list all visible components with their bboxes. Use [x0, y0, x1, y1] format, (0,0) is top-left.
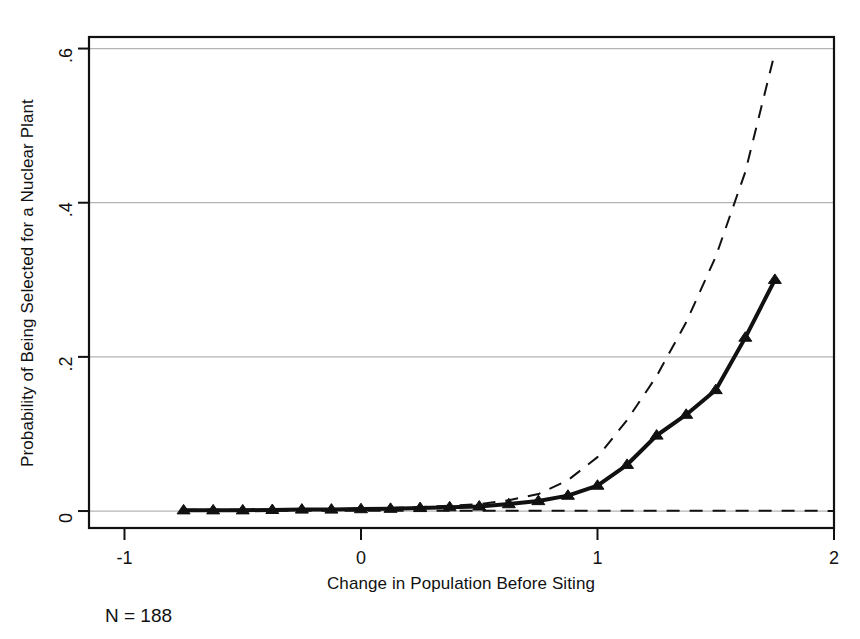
y-axis-title: Probability of Being Selected for a Nucl…	[18, 99, 37, 467]
probability-line-chart: 0.2.4.6 -1012 Probability of Being Selec…	[0, 0, 860, 639]
x-tick-label: 1	[592, 548, 602, 568]
y-tick-label: .4	[56, 202, 76, 217]
y-tick-label: .6	[56, 48, 76, 63]
chart-figure: 0.2.4.6 -1012 Probability of Being Selec…	[0, 0, 860, 639]
x-tick-label: 2	[829, 548, 839, 568]
y-tick-label: .2	[56, 356, 76, 371]
x-tick-label: -1	[116, 548, 132, 568]
y-tick-label: 0	[56, 513, 76, 523]
sample-size-note: N = 188	[105, 605, 172, 626]
x-tick-label: 0	[356, 548, 366, 568]
chart-background	[0, 0, 860, 639]
x-axis-title: Change in Population Before Siting	[327, 574, 595, 593]
